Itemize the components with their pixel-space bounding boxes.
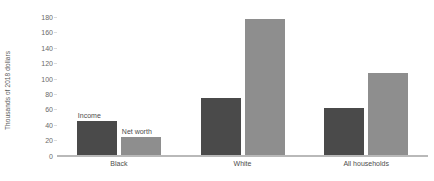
y-tick-label: 20	[33, 137, 53, 144]
x-axis-category-labels: BlackWhiteAll households	[57, 160, 428, 174]
y-tick-label: 120	[33, 60, 53, 67]
series-annotation-income: Income	[78, 112, 101, 119]
category-label-all-households: All households	[343, 160, 389, 167]
y-tick-label: 40	[33, 121, 53, 128]
y-tick-label: 180	[33, 14, 53, 21]
bar-net-worth-black	[121, 137, 161, 155]
y-tick-label: 140	[33, 44, 53, 51]
category-label-white: White	[234, 160, 252, 167]
y-axis-title: Thousands of 2018 dollars	[0, 0, 14, 181]
bar-net-worth-white	[245, 19, 285, 155]
category-label-black: Black	[110, 160, 127, 167]
bar-net-worth-all-households	[368, 73, 408, 155]
bars-container: IncomeNet worth	[57, 0, 428, 155]
bar-income-black	[77, 121, 117, 155]
y-tick-label: 60	[33, 106, 53, 113]
series-annotation-net-worth: Net worth	[122, 128, 152, 135]
bar-income-all-households	[324, 108, 364, 155]
x-axis-baseline	[57, 155, 428, 157]
y-tick-label: 80	[33, 90, 53, 97]
y-axis-tick-labels: 020406080100120140160180	[31, 0, 53, 181]
y-tick-label: 0	[33, 152, 53, 159]
y-tick-label: 100	[33, 75, 53, 82]
bar-chart: Thousands of 2018 dollars 02040608010012…	[0, 0, 434, 181]
y-tick-label: 160	[33, 29, 53, 36]
bar-income-white	[201, 98, 241, 155]
